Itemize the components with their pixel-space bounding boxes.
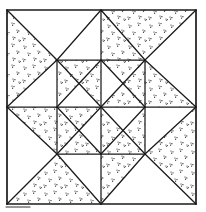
quilt-block-diagram	[0, 0, 206, 212]
scanned-page	[0, 0, 206, 212]
